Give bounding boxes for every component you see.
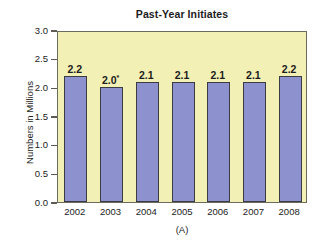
bar-value-label: 2.2	[269, 63, 309, 75]
bar-value-label: 2.1	[198, 69, 238, 81]
bar	[243, 82, 266, 202]
y-axis-tick-label: 1.5	[35, 111, 48, 122]
bar	[136, 82, 159, 202]
x-axis-tick-label: 2008	[269, 206, 309, 217]
bar	[279, 76, 302, 202]
bar-chart-figure: Past-Year Initiates Numbers in Millions …	[0, 0, 322, 248]
y-axis-tick-label: 1.0	[35, 139, 48, 150]
x-axis-tick-label: 2007	[233, 206, 273, 217]
y-axis-tick-label: 2.5	[35, 53, 48, 64]
bar-value-label: 2.0*	[91, 74, 131, 86]
x-axis-tick-label: 2003	[91, 206, 131, 217]
y-axis-title: Numbers in Millions	[24, 48, 35, 198]
x-axis-tick-label: 2006	[198, 206, 238, 217]
y-axis-tick-label: 2.0	[35, 82, 48, 93]
x-axis-caption: (A)	[57, 224, 307, 235]
bar	[172, 82, 195, 202]
y-axis-tick-label: 0.5	[35, 168, 48, 179]
bar-value-label: 2.1	[162, 69, 202, 81]
x-axis-tick-label: 2005	[162, 206, 202, 217]
bar-value-label: 2.2	[55, 63, 95, 75]
y-axis-tick-label: 0.0	[35, 197, 48, 208]
bar-value-label: 2.1	[126, 69, 166, 81]
bar-value-label: 2.1	[233, 69, 273, 81]
bar	[64, 76, 87, 202]
bar	[207, 82, 230, 202]
chart-title: Past-Year Initiates	[57, 8, 307, 20]
bar	[100, 87, 123, 202]
y-axis-tick-label: 3.0	[35, 25, 48, 36]
x-axis-tick-label: 2004	[126, 206, 166, 217]
x-axis-tick-label: 2002	[55, 206, 95, 217]
plot-area	[57, 31, 307, 203]
